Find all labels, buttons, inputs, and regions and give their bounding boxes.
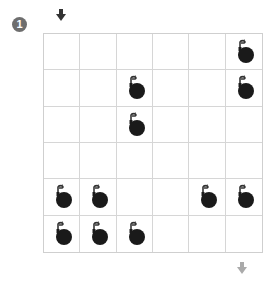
grid-cell-r4-c0[interactable] [44,179,80,215]
grid-cell-r5-c2[interactable] [117,216,153,252]
grid-cell-r4-c5[interactable] [226,179,262,215]
grid-cell-r4-c2[interactable] [117,179,153,215]
grid-cell-r3-c0[interactable] [44,143,80,179]
grid-cell-r2-c4[interactable] [189,107,225,143]
grid-cell-r5-c4[interactable] [189,216,225,252]
grid-cell-r1-c3[interactable] [153,70,189,106]
grid-cell-r0-c5[interactable] [226,34,262,70]
grid-cell-r1-c0[interactable] [44,70,80,106]
grid-cell-r2-c3[interactable] [153,107,189,143]
grid-cell-r5-c0[interactable] [44,216,80,252]
bomb-icon [89,221,109,247]
end-down-arrow-icon [237,262,247,274]
start-down-arrow-icon [56,9,66,21]
grid-cell-r1-c1[interactable] [80,70,116,106]
grid-cell-r5-c5[interactable] [226,216,262,252]
grid-cell-r2-c5[interactable] [226,107,262,143]
grid-cell-r0-c3[interactable] [153,34,189,70]
grid-cell-r3-c3[interactable] [153,143,189,179]
bomb-icon [89,184,109,210]
grid-cell-r3-c2[interactable] [117,143,153,179]
grid-cell-r2-c2[interactable] [117,107,153,143]
grid-cell-r0-c0[interactable] [44,34,80,70]
grid-cell-r0-c1[interactable] [80,34,116,70]
grid-cell-r3-c5[interactable] [226,143,262,179]
grid-cell-r5-c1[interactable] [80,216,116,252]
grid-cell-r4-c4[interactable] [189,179,225,215]
bomb-icon [126,75,146,101]
bomb-icon [235,75,255,101]
grid-cell-r0-c4[interactable] [189,34,225,70]
bomb-icon [126,221,146,247]
grid-cell-r3-c4[interactable] [189,143,225,179]
grid-cell-r1-c4[interactable] [189,70,225,106]
bomb-icon [198,184,218,210]
bomb-icon [235,184,255,210]
bomb-icon [53,221,73,247]
puzzle-grid [43,33,263,253]
grid-cell-r1-c2[interactable] [117,70,153,106]
grid-cell-r4-c3[interactable] [153,179,189,215]
grid-cell-r3-c1[interactable] [80,143,116,179]
grid-cell-r2-c0[interactable] [44,107,80,143]
grid-cell-r2-c1[interactable] [80,107,116,143]
bomb-icon [235,39,255,65]
bomb-icon [126,112,146,138]
bomb-icon [53,184,73,210]
puzzle-number-badge: 1 [12,17,27,32]
grid-cell-r0-c2[interactable] [117,34,153,70]
grid-cell-r5-c3[interactable] [153,216,189,252]
grid-cell-r4-c1[interactable] [80,179,116,215]
grid-cell-r1-c5[interactable] [226,70,262,106]
